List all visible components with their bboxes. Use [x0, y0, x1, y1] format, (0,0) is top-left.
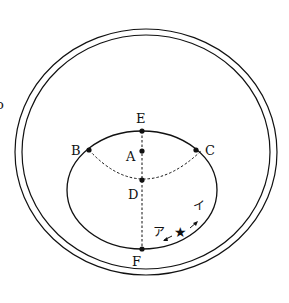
label-f: F	[132, 254, 141, 269]
label-i-direction: イ	[193, 199, 205, 213]
point-e	[139, 128, 144, 133]
label-d: D	[128, 187, 138, 202]
label-e: E	[136, 111, 146, 126]
label-b: B	[71, 143, 81, 158]
label-c: C	[205, 143, 215, 158]
point-d	[139, 177, 144, 182]
point-a	[139, 148, 144, 153]
point-b	[86, 147, 91, 152]
star-icon: ★	[174, 224, 187, 240]
label-a-direction: ア	[153, 225, 165, 239]
edge-fragment: o	[0, 97, 4, 112]
outer-ring	[15, 29, 277, 275]
point-f	[139, 246, 144, 251]
inner-ring	[22, 35, 270, 269]
label-a: A	[125, 149, 136, 164]
dashed-arc-bdc	[89, 150, 202, 179]
orbit-diagram: E A B C D F ★ ア イ o	[0, 0, 289, 303]
point-c	[193, 147, 198, 152]
